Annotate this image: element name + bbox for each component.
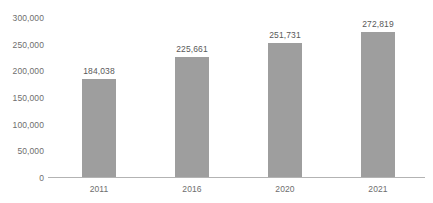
bar-value-label: 225,661 <box>176 44 207 54</box>
y-axis-tick-label: 100,000 <box>0 120 44 130</box>
y-axis-tick-label: 200,000 <box>0 66 44 76</box>
bar-value-label: 272,819 <box>362 19 393 29</box>
x-axis-tick-labels: 2011 2016 2020 2021 <box>48 184 425 198</box>
bar[interactable] <box>82 79 116 177</box>
x-axis-tick-label: 2021 <box>348 184 408 195</box>
y-axis-tick-label: 300,000 <box>0 13 44 23</box>
bar[interactable] <box>175 57 209 177</box>
y-axis-tick-label: 150,000 <box>0 93 44 103</box>
x-axis-tick-label: 2011 <box>69 184 129 195</box>
x-axis-tick-label: 2016 <box>162 184 222 195</box>
bar-value-label: 184,038 <box>83 66 114 76</box>
y-axis-tick-label: 250,000 <box>0 40 44 50</box>
y-axis-tick-label: 0 <box>0 173 44 183</box>
x-axis-tick-label: 2020 <box>255 184 315 195</box>
x-axis-line <box>48 177 425 178</box>
bar-chart: 300,000 250,000 200,000 150,000 100,000 … <box>0 0 433 203</box>
bar[interactable] <box>361 32 395 178</box>
bar[interactable] <box>268 43 302 177</box>
bar-value-label: 251,731 <box>269 30 300 40</box>
bar-series: 184,038 225,661 251,731 272,819 <box>48 13 425 177</box>
y-axis-tick-labels: 300,000 250,000 200,000 150,000 100,000 … <box>0 0 44 203</box>
y-axis-tick-label: 50,000 <box>0 146 44 156</box>
plot-area: 184,038 225,661 251,731 272,819 <box>48 13 425 178</box>
